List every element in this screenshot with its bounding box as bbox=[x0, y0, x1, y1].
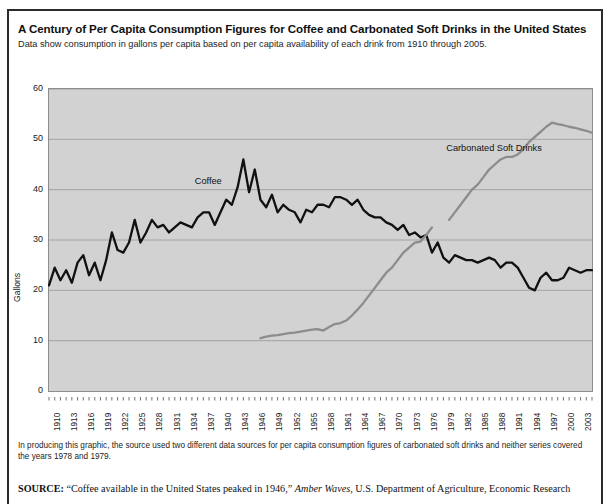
source-quote: “Coffee available in the United States p… bbox=[66, 483, 292, 494]
figure-page: A Century of Per Capita Consumption Figu… bbox=[0, 0, 610, 504]
figure-note: In producing this graphic, the source us… bbox=[18, 441, 591, 462]
figure-title: A Century of Per Capita Consumption Figu… bbox=[18, 22, 588, 35]
y-axis-ticks: 0102030405060 bbox=[18, 88, 43, 392]
x-tick-label: 1925 bbox=[138, 413, 147, 431]
y-tick-label: 30 bbox=[33, 234, 43, 244]
source-publication: Amber Waves bbox=[295, 483, 350, 494]
figure-subtitle: Data show consumption in gallons per cap… bbox=[18, 39, 593, 50]
source-prefix: SOURCE: bbox=[18, 483, 64, 494]
x-tick-label: 1934 bbox=[190, 413, 199, 431]
x-tick-label: 1955 bbox=[310, 413, 319, 431]
x-axis-ticks: 1910191319161919192219251928193119341937… bbox=[48, 397, 594, 437]
source-rest: , U.S. Department of Agriculture, Econom… bbox=[350, 483, 570, 494]
figure-source: SOURCE: “Coffee available in the United … bbox=[18, 483, 596, 495]
x-tick-label: 1952 bbox=[293, 413, 302, 431]
x-tick-label: 1943 bbox=[241, 413, 250, 431]
series-label-coffee: Coffee bbox=[195, 176, 222, 186]
x-tick-label: 1982 bbox=[464, 413, 473, 431]
x-tick-label: 1970 bbox=[395, 413, 404, 431]
x-tick-label: 1985 bbox=[481, 413, 490, 431]
x-tick-label: 1946 bbox=[258, 413, 267, 431]
x-tick-label: 1973 bbox=[413, 413, 422, 431]
y-tick-label: 10 bbox=[33, 335, 43, 345]
y-tick-label: 20 bbox=[33, 284, 43, 294]
x-tick-label: 1991 bbox=[515, 413, 524, 431]
x-tick-label: 1997 bbox=[550, 413, 559, 431]
y-tick-label: 50 bbox=[33, 133, 43, 143]
x-tick-label: 2003 bbox=[584, 413, 593, 431]
series-label-carbonated-soft-drinks: Carbonated Soft Drinks bbox=[446, 143, 542, 153]
x-tick-label: 1937 bbox=[207, 413, 216, 431]
figure-border-top bbox=[7, 9, 603, 11]
chart-plot-area: Gallons CoffeeCarbonated Soft Drinks bbox=[48, 88, 593, 392]
chart-svg bbox=[48, 88, 593, 392]
x-tick-label: 1931 bbox=[173, 413, 182, 431]
x-tick-label: 1958 bbox=[327, 413, 336, 431]
x-tick-label: 1961 bbox=[344, 413, 353, 431]
x-tick-label: 1979 bbox=[447, 413, 456, 431]
x-tick-label: 1916 bbox=[87, 413, 96, 431]
y-tick-label: 60 bbox=[33, 83, 43, 93]
figure-border-right bbox=[601, 9, 603, 504]
x-tick-label: 1988 bbox=[498, 413, 507, 431]
x-tick-label: 1940 bbox=[224, 413, 233, 431]
x-tick-label: 2000 bbox=[567, 413, 576, 431]
x-tick-label: 1949 bbox=[275, 413, 284, 431]
x-tick-label: 1928 bbox=[155, 413, 164, 431]
x-tick-label: 1919 bbox=[104, 413, 113, 431]
x-tick-label: 1976 bbox=[430, 413, 439, 431]
y-tick-label: 0 bbox=[38, 385, 43, 395]
x-tick-label: 1967 bbox=[378, 413, 387, 431]
y-tick-label: 40 bbox=[33, 184, 43, 194]
x-tick-label: 1922 bbox=[121, 413, 130, 431]
figure-border-left bbox=[7, 9, 9, 504]
x-tick-label: 1913 bbox=[70, 413, 79, 431]
x-tick-label: 1994 bbox=[533, 413, 542, 431]
x-tick-label: 1964 bbox=[361, 413, 370, 431]
x-tick-label: 1910 bbox=[53, 413, 62, 431]
